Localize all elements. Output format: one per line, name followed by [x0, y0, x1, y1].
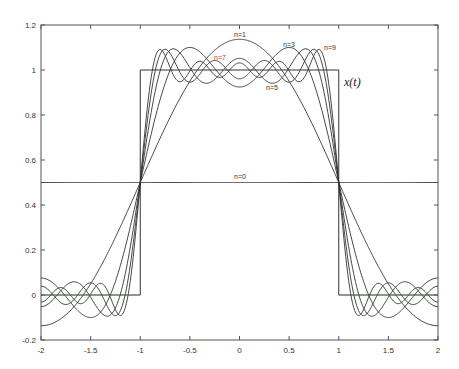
y-tick-label: 0	[32, 291, 37, 300]
label-n0: n=0	[234, 173, 246, 180]
label-x-of-t: x(t)	[343, 75, 361, 89]
y-tick-label: 1.2	[25, 21, 37, 30]
label-n3: n=3	[283, 41, 295, 48]
x-tick-label: -1.5	[84, 346, 98, 355]
x-tick-label: 1	[337, 346, 342, 355]
label-n5: n=5	[266, 84, 278, 91]
y-tick-label: -0.2	[22, 336, 36, 345]
x-tick-label: -0.5	[183, 346, 197, 355]
label-n7: n=7	[214, 54, 226, 61]
y-tick-label: 0.6	[25, 156, 37, 165]
label-n1: n=1	[234, 31, 246, 38]
y-tick-label: 0.2	[25, 246, 37, 255]
y-tick-label: 0.4	[25, 201, 37, 210]
fourier-series-chart: -2-1.5-1-0.500.511.52-0.200.20.40.60.811…	[0, 0, 459, 369]
partial-sum-curves	[41, 39, 438, 325]
x-tick-label: -1	[137, 346, 145, 355]
x-tick-label: 2	[436, 346, 441, 355]
x-tick-label: 0	[237, 346, 242, 355]
x-tick-label: 0.5	[284, 346, 296, 355]
x-tick-label: 1.5	[383, 346, 395, 355]
y-tick-label: 0.8	[25, 111, 37, 120]
axis-ticks: -2-1.5-1-0.500.511.52-0.200.20.40.60.811…	[22, 21, 441, 355]
label-n9: n=9	[324, 44, 336, 51]
y-tick-label: 1	[32, 66, 37, 75]
x-tick-label: -2	[37, 346, 45, 355]
